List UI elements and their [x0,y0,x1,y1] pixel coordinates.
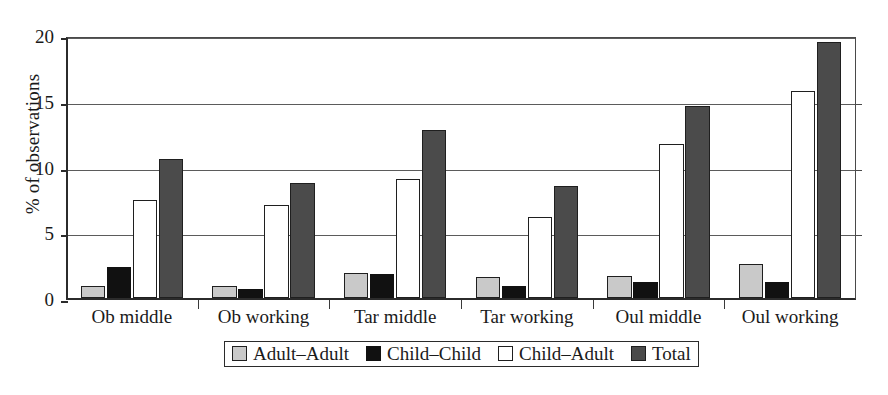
y-tick-mark [61,38,68,40]
legend-item: Child–Child [366,344,481,363]
legend-label: Total [652,344,691,363]
gridline [68,104,855,105]
legend-label: Child–Adult [519,344,614,363]
bar-group [200,38,332,298]
bar [81,286,106,298]
y-tick-label: 20 [0,27,54,46]
bar [817,42,842,298]
bar [238,289,263,298]
swatch-adult-adult-icon [232,346,247,361]
x-axis-label: Ob working [198,306,330,328]
y-tick-label: 15 [0,93,54,112]
bar [133,200,158,298]
x-axis-label: Ob middle [66,306,198,328]
bar-group [463,38,595,298]
y-tick-mark-right [855,170,862,171]
y-tick-label: 10 [0,159,54,178]
bar-group [68,38,200,298]
bar [290,183,315,298]
y-tick-mark [61,104,68,106]
bar-chart: % of observations 05101520 Ob middleOb w… [0,0,888,395]
y-tick-label: 5 [0,224,54,243]
gridline [68,170,855,171]
y-tick-mark [61,301,68,303]
gridline [68,235,855,236]
bar [476,277,501,298]
bar [739,264,764,298]
swatch-child-adult-icon [498,346,513,361]
chart-legend: Adult–AdultChild–ChildChild–AdultTotal [224,341,699,367]
legend-item: Total [631,344,691,363]
bar [159,159,184,298]
y-tick-label: 0 [0,290,54,309]
bar-group [595,38,727,298]
swatch-child-child-icon [366,346,381,361]
legend-item: Adult–Adult [232,344,349,363]
legend-label: Adult–Adult [253,344,349,363]
plot-area [66,37,856,300]
bar [344,273,369,298]
y-tick-mark [61,235,68,237]
x-axis-label: Oul middle [593,306,725,328]
bar-group [331,38,463,298]
bar [264,205,289,298]
y-tick-mark-right [855,235,862,236]
bar [212,286,237,298]
bar-groups [68,38,855,298]
bar [659,144,684,299]
y-tick-mark [61,170,68,172]
bar [633,282,658,298]
swatch-total-icon [631,346,646,361]
bar [528,217,553,298]
bar [107,267,132,298]
bar [765,282,790,298]
legend-label: Child–Child [387,344,481,363]
bar [502,286,527,298]
gridline [68,38,855,39]
x-axis-label: Oul working [724,306,856,328]
bar [607,276,632,298]
y-tick-mark-right [855,104,862,105]
bar [685,106,710,298]
bar [422,130,447,298]
bar [791,91,816,298]
bar [396,179,421,298]
x-axis-label: Tar working [461,306,593,328]
legend-item: Child–Adult [498,344,614,363]
bar [554,186,579,298]
x-axis-label: Tar middle [329,306,461,328]
bar [370,274,395,298]
bar-group [726,38,858,298]
x-axis-labels: Ob middleOb workingTar middleTar working… [66,306,856,336]
